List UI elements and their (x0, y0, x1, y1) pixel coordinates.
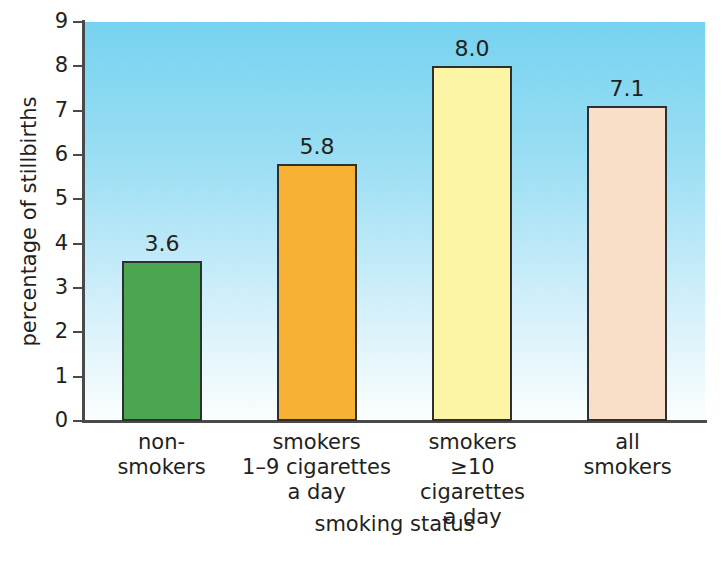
bar-value-label: 7.1 (587, 78, 667, 100)
bar[interactable] (432, 66, 512, 421)
x-axis-category-label-line: smokers (84, 455, 239, 480)
x-axis-category-label-line: non- (84, 430, 239, 455)
y-tick-label-wrap: 1 (40, 366, 68, 387)
y-tick-label-wrap: 4 (40, 233, 68, 254)
x-axis-category-label-line: all (550, 430, 705, 455)
y-tick-label: 3 (46, 277, 68, 298)
y-tick-label: 1 (46, 366, 68, 387)
y-axis-line (82, 20, 85, 423)
y-tick-label-wrap: 7 (40, 100, 68, 121)
y-tick-mark (73, 243, 83, 245)
y-axis-title: percentage of stillbirths (19, 62, 40, 382)
x-axis-category-label: smokers1–9 cigarettesa day (239, 430, 394, 505)
y-tick-mark (73, 198, 83, 200)
y-tick-mark (73, 21, 83, 23)
y-tick-label: 8 (46, 55, 68, 76)
y-tick-label: 9 (46, 11, 68, 32)
x-axis-category-label: non-smokers (84, 430, 239, 480)
x-axis-category-label-line: smokers (395, 430, 550, 455)
y-tick-label-wrap: 8 (40, 55, 68, 76)
bar-value-label: 8.0 (432, 38, 512, 60)
y-tick-label: 7 (46, 100, 68, 121)
bar-value-label: 3.6 (122, 233, 202, 255)
bar-chart-figure: 9876543210 3.65.88.07.1 non-smokerssmoke… (0, 0, 724, 565)
x-axis-title: smoking status (84, 514, 705, 535)
bar[interactable] (277, 164, 357, 421)
y-tick-mark (73, 376, 83, 378)
x-axis-category-label-line: ≥10 cigarettes (395, 455, 550, 505)
y-tick-label-wrap: 2 (40, 321, 68, 342)
x-axis-category-label-line: 1–9 cigarettes (239, 455, 394, 480)
y-tick-mark (73, 65, 83, 67)
y-tick-label-wrap: 5 (40, 188, 68, 209)
y-tick-mark (73, 287, 83, 289)
y-tick-mark (73, 331, 83, 333)
y-tick-label: 4 (46, 233, 68, 254)
y-tick-label: 5 (46, 188, 68, 209)
y-tick-label-wrap: 0 (40, 410, 68, 431)
y-tick-label-wrap: 9 (40, 11, 68, 32)
x-axis-category-label-line: a day (239, 480, 394, 505)
y-axis-title-holder: percentage of stillbirths (0, 0, 1, 1)
y-tick-mark (73, 154, 83, 156)
y-tick-label: 6 (46, 144, 68, 165)
y-tick-mark (73, 420, 83, 422)
bar[interactable] (122, 261, 202, 421)
x-axis-category-label: allsmokers (550, 430, 705, 480)
y-tick-label-wrap: 6 (40, 144, 68, 165)
bar-value-label: 5.8 (277, 136, 357, 158)
x-axis-category-label-line: smokers (550, 455, 705, 480)
x-axis-category-label-line: smokers (239, 430, 394, 455)
y-tick-label: 2 (46, 321, 68, 342)
bar[interactable] (587, 106, 667, 421)
figure-caption-sliver (0, 556, 724, 565)
y-tick-mark (73, 110, 83, 112)
y-tick-label-wrap: 3 (40, 277, 68, 298)
y-tick-label: 0 (46, 410, 68, 431)
